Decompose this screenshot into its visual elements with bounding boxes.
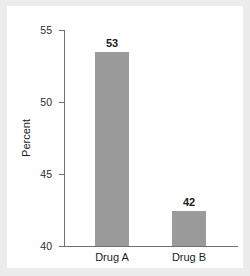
y-tick-label-45: 45 bbox=[40, 169, 52, 180]
y-axis-title: Percent bbox=[21, 119, 32, 157]
y-tick-label-50: 50 bbox=[40, 97, 52, 108]
y-axis-line bbox=[64, 30, 65, 247]
x-tick-label-drug-b: Drug B bbox=[172, 252, 206, 263]
y-tick-label-55: 55 bbox=[40, 25, 52, 36]
y-tick-55: 55 bbox=[59, 30, 64, 31]
bar-value-drug-b: 42 bbox=[183, 197, 195, 208]
y-tick-label-40: 40 bbox=[40, 241, 52, 252]
bar-drug-b: 42 bbox=[172, 211, 206, 246]
plot-area: 55 50 45 40 53 42 Drug A Drug B bbox=[64, 30, 237, 246]
y-tick-45: 45 bbox=[59, 174, 64, 175]
x-axis-line bbox=[64, 246, 238, 247]
bar-drug-a: 53 bbox=[95, 52, 129, 246]
bar-chart-figure: Percent 55 50 45 40 53 42 bbox=[0, 0, 250, 276]
x-tick-label-drug-a: Drug A bbox=[95, 252, 129, 263]
chart-panel: Percent 55 50 45 40 53 42 bbox=[7, 6, 243, 268]
y-tick-40: 40 bbox=[59, 246, 64, 247]
bar-value-drug-a: 53 bbox=[106, 38, 118, 49]
y-tick-50: 50 bbox=[59, 102, 64, 103]
